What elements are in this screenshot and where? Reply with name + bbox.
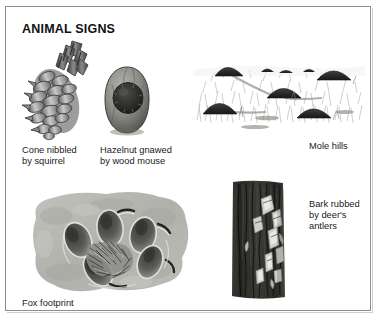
caption-mole-hills: Mole hills — [309, 141, 348, 152]
hazelnut-gnawed-illustration — [102, 65, 152, 137]
fox-footprint-illustration — [26, 188, 194, 298]
caption-bark-rubbed: Bark rubbed by deer's antlers — [309, 199, 360, 233]
animal-signs-panel: ANIMAL SIGNS — [5, 6, 371, 311]
caption-cone-nibbled: Cone nibbled by squirrel — [22, 145, 77, 167]
pine-cone-nibbled-illustration — [22, 37, 94, 141]
caption-fox-footprint: Fox footprint — [22, 298, 74, 309]
caption-hazelnut-gnawed: Hazelnut gnawed by wood mouse — [100, 145, 172, 167]
animal-signs-figure-page: ANIMAL SIGNS — [0, 0, 379, 320]
rubbed-tree-bark-illustration — [227, 179, 289, 301]
mole-hills-field-illustration — [193, 48, 365, 130]
page-title: ANIMAL SIGNS — [22, 22, 115, 36]
